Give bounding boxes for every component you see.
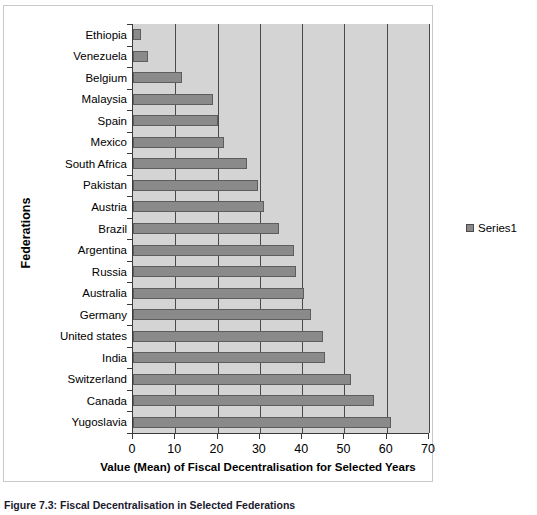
y-tick [127, 218, 132, 219]
chart-frame: EthiopiaVenezuelaBelgiumMalaysiaSpainMex… [3, 5, 433, 482]
bar-row [133, 309, 429, 320]
bar-venezuela [133, 51, 148, 62]
x-tick-label-40: 40 [281, 442, 321, 456]
y-label-malaysia: Malaysia [7, 93, 127, 105]
y-tick [127, 325, 132, 326]
y-label-belgium: Belgium [7, 72, 127, 84]
x-axis-title: Value (Mean) of Fiscal Decentralisation … [88, 461, 428, 473]
bar-yugoslavia [133, 417, 391, 428]
bar-row [133, 72, 429, 83]
y-axis-title: Federations [19, 173, 33, 293]
y-tick [127, 239, 132, 240]
y-tick [127, 347, 132, 348]
y-tick [127, 411, 132, 412]
y-label-venezuela: Venezuela [7, 50, 127, 62]
y-tick [127, 89, 132, 90]
x-tick-30 [259, 433, 260, 439]
y-tick [127, 282, 132, 283]
y-label-germany: Germany [7, 309, 127, 321]
bar-mexico [133, 137, 224, 148]
bar-south-africa [133, 158, 247, 169]
x-tick-label-10: 10 [154, 442, 194, 456]
bar-row [133, 158, 429, 169]
y-label-south-africa: South Africa [7, 158, 127, 170]
figure-caption: Figure 7.3: Fiscal Decentralisation in S… [4, 499, 295, 511]
plot-area [132, 24, 429, 434]
y-label-india: India [7, 352, 127, 364]
y-tick [127, 67, 132, 68]
bar-row [133, 417, 429, 428]
bar-row [133, 331, 429, 342]
bar-ethiopia [133, 29, 141, 40]
y-tick [127, 24, 132, 25]
y-label-canada: Canada [7, 395, 127, 407]
bar-row [133, 137, 429, 148]
legend-item-label: Series1 [478, 222, 517, 234]
bar-row [133, 223, 429, 234]
bar-row [133, 288, 429, 299]
bar-row [133, 352, 429, 363]
bar-argentina [133, 245, 294, 256]
x-tick-60 [386, 433, 387, 439]
y-tick [127, 175, 132, 176]
bar-row [133, 266, 429, 277]
gridline-70 [429, 24, 430, 433]
x-tick-label-30: 30 [239, 442, 279, 456]
y-label-spain: Spain [7, 115, 127, 127]
x-tick-0 [132, 433, 133, 439]
bar-row [133, 201, 429, 212]
x-tick-10 [174, 433, 175, 439]
bar-malaysia [133, 94, 213, 105]
x-tick-70 [428, 433, 429, 439]
bar-series-series1 [133, 24, 429, 433]
bar-row [133, 374, 429, 385]
bar-belgium [133, 72, 182, 83]
bar-spain [133, 115, 218, 126]
bar-pakistan [133, 180, 258, 191]
y-tick [127, 390, 132, 391]
series1-swatch [466, 224, 474, 232]
y-label-yugoslavia: Yugoslavia [7, 416, 127, 428]
bar-united-states [133, 331, 323, 342]
bar-switzerland [133, 374, 351, 385]
bar-germany [133, 309, 311, 320]
bar-row [133, 395, 429, 406]
bar-row [133, 94, 429, 105]
x-tick-40 [301, 433, 302, 439]
y-tick [127, 196, 132, 197]
y-tick [127, 46, 132, 47]
y-label-ethiopia: Ethiopia [7, 29, 127, 41]
y-label-mexico: Mexico [7, 136, 127, 148]
bar-row [133, 245, 429, 256]
bar-austria [133, 201, 264, 212]
y-tick [127, 132, 132, 133]
y-tick [127, 153, 132, 154]
y-tick [127, 110, 132, 111]
y-tick [127, 261, 132, 262]
x-tick-50 [343, 433, 344, 439]
x-tick-20 [217, 433, 218, 439]
x-tick-label-70: 70 [408, 442, 448, 456]
bar-row [133, 180, 429, 191]
bar-australia [133, 288, 304, 299]
y-label-switzerland: Switzerland [7, 373, 127, 385]
bar-india [133, 352, 325, 363]
bar-row [133, 51, 429, 62]
bar-row [133, 115, 429, 126]
bar-row [133, 29, 429, 40]
x-tick-label-50: 50 [323, 442, 363, 456]
y-tick [127, 368, 132, 369]
bar-russia [133, 266, 296, 277]
chart-legend: Series1 [466, 222, 517, 234]
y-tick [127, 304, 132, 305]
x-tick-label-0: 0 [112, 442, 152, 456]
bar-brazil [133, 223, 279, 234]
y-label-united-states: United states [7, 330, 127, 342]
x-tick-label-20: 20 [197, 442, 237, 456]
x-tick-label-60: 60 [366, 442, 406, 456]
bar-canada [133, 395, 374, 406]
